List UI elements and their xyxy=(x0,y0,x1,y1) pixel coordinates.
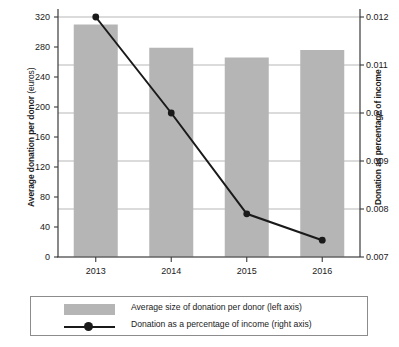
legend-item-line: Donation as a percentage of income (righ… xyxy=(31,318,367,335)
legend-circle-marker-icon xyxy=(84,322,93,331)
chart-container: Average donation per donor (euros) Donat… xyxy=(0,0,399,347)
right-tick-label: 0.008 xyxy=(366,205,399,214)
plot-area xyxy=(0,0,399,347)
right-tick-label: 0.011 xyxy=(366,61,399,70)
right-tick-label: 0.012 xyxy=(366,13,399,22)
left-tick-label: 320 xyxy=(20,13,50,22)
right-tick-label: 0.01 xyxy=(366,109,399,118)
x-tick-label: 2013 xyxy=(66,267,126,276)
left-tick-label: 120 xyxy=(20,163,50,172)
left-tick-label: 0 xyxy=(20,253,50,262)
x-tick-label: 2014 xyxy=(141,267,201,276)
left-tick-label: 280 xyxy=(20,43,50,52)
legend-bar-swatch-icon xyxy=(64,304,115,315)
legend-item-line-label: Donation as a percentage of income (righ… xyxy=(131,320,312,329)
bar-series xyxy=(74,25,345,258)
left-tick-label: 160 xyxy=(20,133,50,142)
right-tick-label: 0.009 xyxy=(366,157,399,166)
right-tick-label: 0.007 xyxy=(366,253,399,262)
left-tick-label: 240 xyxy=(20,73,50,82)
legend-item-bar: Average size of donation per donor (left… xyxy=(31,301,367,318)
legend: Average size of donation per donor (left… xyxy=(30,296,368,336)
x-tick-label: 2015 xyxy=(217,267,277,276)
left-tick-label: 80 xyxy=(20,193,50,202)
left-tick-label: 40 xyxy=(20,223,50,232)
left-tick-label: 200 xyxy=(20,103,50,112)
legend-item-bar-label: Average size of donation per donor (left… xyxy=(131,303,302,312)
x-tick-label: 2016 xyxy=(292,267,352,276)
